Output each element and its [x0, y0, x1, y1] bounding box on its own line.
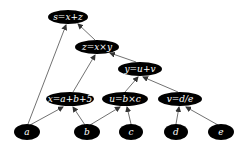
edge-u-to-y [125, 77, 138, 92]
node-z: z=x×y [75, 40, 119, 54]
node-v: v=d/e [158, 92, 202, 106]
node-label: b [84, 127, 90, 137]
node-label: s=x+z [53, 12, 83, 22]
edge-v-to-y [143, 77, 178, 92]
edge-d-to-v [176, 107, 179, 124]
node-label: d [173, 127, 179, 137]
node-b: b [74, 124, 100, 140]
edge-b-to-u [90, 107, 120, 125]
node-label: v=d/e [167, 94, 194, 104]
node-label: e [218, 127, 223, 137]
edge-c-to-u [127, 107, 131, 124]
node-x: x=a+b+5 [46, 92, 94, 106]
edge-a-to-s [28, 25, 66, 124]
node-label: x=a+b+5 [48, 94, 93, 104]
node-c: c [119, 124, 143, 140]
node-e: e [208, 124, 234, 140]
edge-z-to-s [78, 24, 95, 40]
edge-b-to-x [73, 107, 85, 125]
edges [28, 24, 218, 125]
edge-a-to-x [30, 107, 63, 125]
edge-e-to-v [186, 107, 218, 125]
node-label: z=x×y [81, 42, 113, 52]
node-s: s=x+z [48, 10, 88, 24]
edge-x-to-z [73, 55, 95, 92]
node-u: u=b×c [102, 92, 148, 106]
node-d: d [164, 124, 188, 140]
edge-y-to-z [110, 53, 136, 62]
node-label: y=u+v [123, 64, 155, 74]
computational-graph: s=x+zz=x×yy=u+vx=a+b+5u=b×cv=d/eabcde [0, 0, 245, 151]
node-label: c [128, 127, 133, 137]
node-label: a [24, 127, 29, 137]
node-label: u=b×c [109, 94, 141, 104]
node-y: y=u+v [118, 62, 162, 76]
node-a: a [14, 124, 40, 140]
